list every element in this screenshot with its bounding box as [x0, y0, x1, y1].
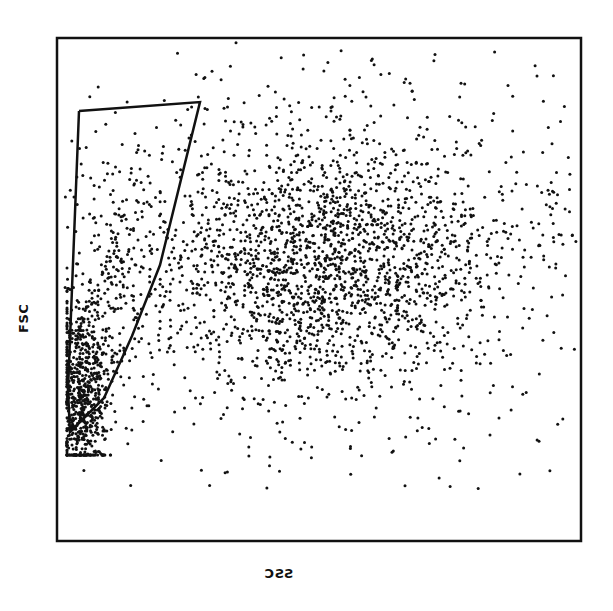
scatter-plot: [0, 0, 613, 611]
plot-frame: [57, 38, 581, 541]
y-axis-label: FSC: [16, 304, 31, 333]
event-points: [64, 41, 578, 490]
x-axis-label: SSC: [264, 566, 293, 581]
